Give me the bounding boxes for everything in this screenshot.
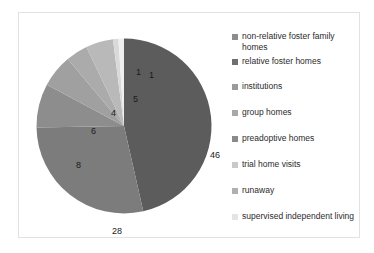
legend-item-label: institutions — [242, 81, 282, 92]
legend-item[interactable]: relative foster homes — [232, 56, 358, 67]
legend-item-label: preadoptive homes — [242, 133, 314, 144]
legend-item-label: non-relative foster family homes — [242, 31, 358, 52]
legend-swatch-icon — [232, 59, 238, 65]
legend-swatch-icon — [232, 162, 238, 168]
legend-item[interactable]: non-relative foster family homes — [232, 31, 358, 52]
pie-data-label: 4 — [111, 109, 116, 118]
legend-item[interactable]: trial home visits — [232, 159, 358, 170]
pie-data-label: 28 — [112, 227, 122, 236]
pie-data-label: 6 — [91, 127, 96, 136]
legend-item[interactable]: institutions — [232, 81, 358, 92]
legend-swatch-icon — [232, 136, 238, 142]
chart-frame: 4628864511 non-relative foster family ho… — [18, 12, 360, 238]
legend-swatch-icon — [232, 110, 238, 116]
legend-item-label: trial home visits — [242, 159, 301, 170]
pie-data-label: 5 — [133, 95, 138, 104]
pie-data-label: 1 — [149, 71, 154, 80]
legend-swatch-icon — [232, 34, 238, 40]
pie-data-label: 1 — [136, 68, 141, 77]
legend-item[interactable]: preadoptive homes — [232, 133, 358, 144]
legend-item-label: relative foster homes — [242, 56, 321, 67]
pie-chart-svg — [36, 37, 212, 215]
chart-legend: non-relative foster family homesrelative… — [232, 21, 358, 233]
pie-slice-group — [36, 39, 211, 214]
legend-swatch-icon — [232, 188, 238, 194]
pie-plot-area: 4628864511 — [36, 37, 212, 215]
legend-swatch-icon — [232, 214, 238, 220]
legend-item[interactable]: runaway — [232, 185, 358, 196]
pie-data-label: 46 — [210, 151, 220, 160]
legend-item-label: runaway — [242, 185, 274, 196]
legend-item-label: group homes — [242, 107, 292, 118]
pie-data-label: 8 — [76, 161, 81, 170]
legend-item[interactable]: group homes — [232, 107, 358, 118]
legend-item-label: supervised independent living — [242, 211, 354, 222]
legend-swatch-icon — [232, 84, 238, 90]
legend-item[interactable]: supervised independent living — [232, 211, 358, 222]
